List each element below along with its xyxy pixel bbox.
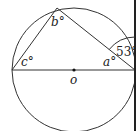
center-point <box>72 68 75 71</box>
label-c: c° <box>21 55 34 69</box>
label-angle-53: 53° <box>116 45 136 59</box>
label-b: b° <box>51 15 65 29</box>
label-a: a° <box>103 55 116 69</box>
circle-geometry-diagram: b° c° a° o 53° <box>0 0 136 131</box>
label-o: o <box>70 73 77 87</box>
